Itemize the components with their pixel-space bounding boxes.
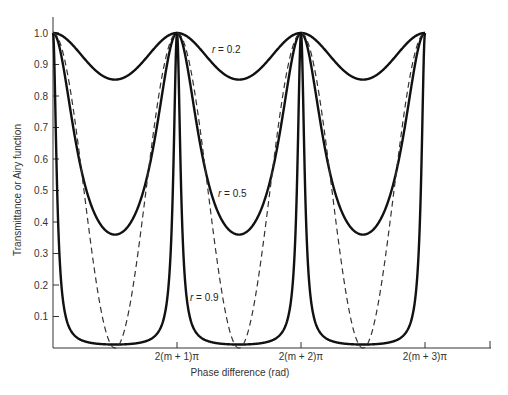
y-axis-title: Transmittance or Airy function xyxy=(12,124,23,256)
label-r-0-9: r = 0.9 xyxy=(190,292,219,303)
label-r-0-2: r = 0.2 xyxy=(212,44,241,55)
y-tick-label: 0.1 xyxy=(34,311,48,322)
y-tick-label: 1.0 xyxy=(34,28,48,39)
x-tick-label: 2(m + 1)π xyxy=(155,351,200,362)
curve-r-0-2 xyxy=(53,33,425,80)
y-tick-label: 0.2 xyxy=(34,280,48,291)
x-tick-label: 2(m + 2)π xyxy=(279,351,324,362)
y-tick-label: 0.3 xyxy=(34,248,48,259)
y-tick-label: 0.8 xyxy=(34,91,48,102)
label-r-0-5: r = 0.5 xyxy=(218,188,247,199)
x-tick-label: 2(m + 3)π xyxy=(403,351,448,362)
y-tick-label: 0.9 xyxy=(34,59,48,70)
y-tick-label: 0.5 xyxy=(34,185,48,196)
x-axis-ticks: 2(m + 1)π2(m + 2)π2(m + 3)π xyxy=(155,342,448,362)
curve-r-0-5 xyxy=(53,33,425,235)
y-tick-label: 0.6 xyxy=(34,154,48,165)
y-tick-label: 0.7 xyxy=(34,122,48,133)
x-axis-title: Phase difference (rad) xyxy=(191,367,290,378)
y-tick-label: 0.4 xyxy=(34,217,48,228)
airy-function-chart: 0.10.20.30.40.50.60.70.80.91.0 2(m + 1)π… xyxy=(0,0,508,395)
